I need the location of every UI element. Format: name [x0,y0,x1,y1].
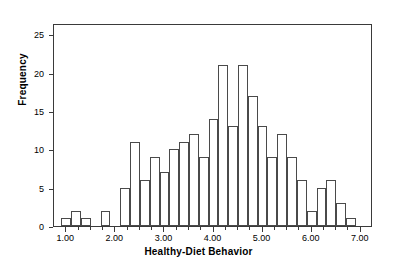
x-tick-minor [225,227,226,230]
x-tick-label: 1.00 [45,233,85,243]
histogram-bar [130,142,140,226]
histogram-bar [307,211,317,226]
x-tick-minor [249,227,250,230]
x-tick-minor [200,227,201,230]
x-tick-minor [237,227,238,230]
x-tick-minor [286,227,287,230]
histogram-bar [150,157,160,226]
histogram-bar [258,126,268,226]
histogram-bar [336,203,346,226]
x-axis-title: Healthy-Diet Behavior [0,246,397,257]
x-tick-major [114,227,115,232]
histogram-bar [189,134,199,226]
x-tick-label: 7.00 [340,233,380,243]
x-tick-minor [188,227,189,230]
x-tick-major [213,227,214,232]
y-axis-title: Frequency [17,20,28,140]
y-tick-label: 25 [34,31,44,40]
x-tick-minor [151,227,152,230]
histogram-bar [160,172,170,226]
x-tick-major [360,227,361,232]
histogram-bar [277,134,287,226]
histogram-bar [228,126,238,226]
histogram-bar [199,157,209,226]
histogram-bar [218,65,228,226]
x-tick-label: 5.00 [242,233,282,243]
x-tick-minor [102,227,103,230]
histogram-chart: Frequency 0510152025 Healthy-Diet Behavi… [0,0,397,271]
x-tick-major [311,227,312,232]
histogram-bar [209,119,219,226]
x-tick-label: 4.00 [193,233,233,243]
x-tick-minor [274,227,275,230]
bars-layer [54,25,371,226]
x-tick-label: 2.00 [94,233,134,243]
histogram-bar [120,188,130,226]
histogram-bar [179,142,189,226]
x-tick-major [65,227,66,232]
x-tick-minor [78,227,79,230]
y-tick-label: 20 [34,70,44,79]
x-tick-major [262,227,263,232]
histogram-bar [101,211,111,226]
x-tick-label: 6.00 [291,233,331,243]
x-tick-minor [347,227,348,230]
x-tick-label: 3.00 [143,233,183,243]
histogram-bar [169,149,179,226]
histogram-bar [61,218,71,226]
x-tick-minor [90,227,91,230]
x-tick-minor [323,227,324,230]
histogram-bar [346,218,356,226]
histogram-bar [287,157,297,226]
histogram-bar [71,211,81,226]
histogram-bar [326,180,336,226]
histogram-bar [317,188,327,226]
x-tick-minor [139,227,140,230]
histogram-bar [267,157,277,226]
histogram-bar [248,96,258,226]
x-tick-minor [298,227,299,230]
histogram-bar [297,180,307,226]
x-axis: Healthy-Diet Behavior 1.002.003.004.005.… [0,227,397,271]
x-tick-minor [127,227,128,230]
y-tick-label: 5 [39,185,44,194]
plot-area [53,24,372,227]
x-tick-minor [176,227,177,230]
x-tick-minor [335,227,336,230]
y-tick-label: 15 [34,108,44,117]
x-tick-major [163,227,164,232]
histogram-bar [238,65,248,226]
histogram-bar [140,180,150,226]
histogram-bar [81,218,91,226]
y-tick-label: 10 [34,146,44,155]
